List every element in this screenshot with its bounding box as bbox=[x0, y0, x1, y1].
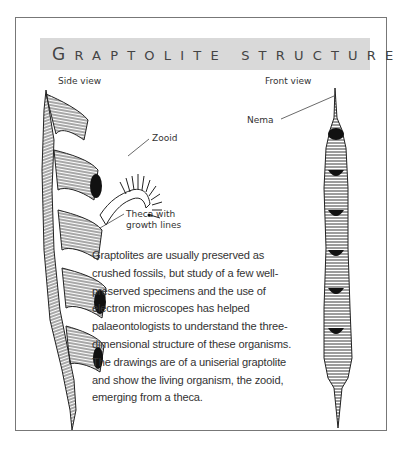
description-text: Graptolites are usually preserved as cru… bbox=[92, 247, 292, 407]
title-initial: G bbox=[52, 44, 74, 64]
front-view-label: Front view bbox=[265, 76, 311, 86]
title-rest: RAPTOLITE STRUCTURE bbox=[74, 48, 399, 63]
front-view-graptolite-illustration bbox=[318, 88, 358, 428]
title-bar: GRAPTOLITE STRUCTURE bbox=[40, 38, 370, 70]
nema-label: Nema bbox=[247, 115, 274, 125]
side-view-label: Side view bbox=[58, 76, 101, 86]
diagram-title: GRAPTOLITE STRUCTURE bbox=[52, 44, 399, 64]
